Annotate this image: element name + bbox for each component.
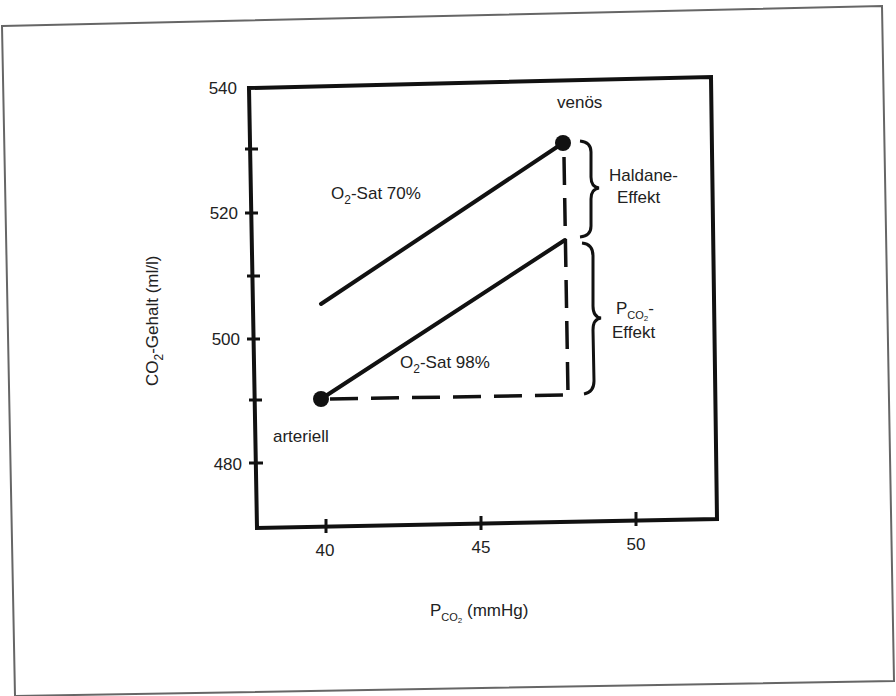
series-line-sat70 (321, 143, 563, 304)
y-tick-480: 480 (214, 455, 242, 474)
y-tick-540: 540 (209, 79, 237, 98)
label-pco2-effekt-line1: PCO2- (616, 299, 654, 323)
chart-canvas: 540 520 500 480 40 45 50 venös arteriell… (0, 0, 896, 696)
label-pco2-effekt-line2: Effekt (612, 323, 655, 342)
label-haldane-line2: Effekt (617, 188, 660, 207)
y-tick-labels: 540 520 500 480 (209, 79, 242, 474)
dashed-line-horizontal (330, 395, 565, 399)
label-arteriell: arteriell (273, 427, 329, 446)
point-arteriell-marker (313, 391, 329, 407)
y-tick-500: 500 (212, 330, 240, 349)
y-axis-title: CO2-Gehalt (ml/l) (143, 256, 166, 386)
x-tick-50: 50 (627, 535, 646, 554)
label-sat70: O2-Sat 70% (331, 184, 421, 207)
label-venos: venös (557, 93, 602, 112)
pco2-bracket (582, 243, 601, 394)
label-haldane-line1: Haldane- (609, 166, 678, 185)
dashed-line-vertical (564, 157, 568, 394)
point-venos-marker (555, 135, 571, 151)
plot-area-box (249, 77, 717, 528)
label-sat98: O2-Sat 98% (400, 353, 490, 376)
series-line-sat98 (321, 240, 565, 399)
haldane-bracket (580, 141, 599, 237)
outer-frame (2, 6, 894, 696)
x-tick-labels: 40 45 50 (316, 535, 646, 560)
x-tick-45: 45 (472, 538, 491, 557)
y-tick-520: 520 (210, 204, 238, 223)
x-axis-title: PCO2 (mmHg) (430, 601, 528, 625)
y-axis-title-group: CO2-Gehalt (ml/l) (143, 256, 166, 386)
x-tick-40: 40 (316, 541, 335, 560)
